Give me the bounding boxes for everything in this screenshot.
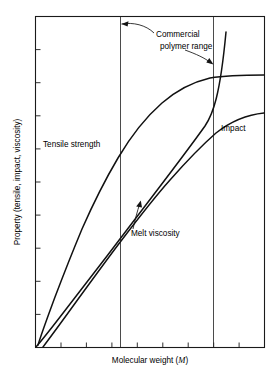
series-label-melt-viscosity: Melt viscosity (131, 229, 181, 238)
curve-tensile-strength (38, 75, 264, 345)
y-axis-title: Property (tensile, impact, viscosity) (13, 118, 22, 245)
series-label-tensile-strength: Tensile strength (43, 140, 101, 149)
x-axis-title-plain: Molecular weight ( (112, 356, 179, 365)
annotation-leader-left (122, 21, 155, 33)
x-axis-ticks (61, 343, 239, 348)
plot-frame (36, 17, 265, 348)
annotation-commercial-range-line1: Commercial (156, 30, 200, 39)
annotation-commercial-range-line2: polymer range (160, 42, 213, 51)
molecular-weight-property-chart: Commercial polymer range Tensile strengt… (0, 0, 279, 381)
series-label-impact: Impact (221, 124, 246, 133)
curve-melt-viscosity (36, 32, 226, 347)
x-axis-title: Molecular weight (M) (112, 355, 189, 365)
x-axis-title-close: ) (185, 356, 188, 365)
y-axis-ticks (36, 50, 41, 315)
annotation-leader-right (185, 50, 214, 65)
figure-root: Commercial polymer range Tensile strengt… (0, 0, 279, 381)
